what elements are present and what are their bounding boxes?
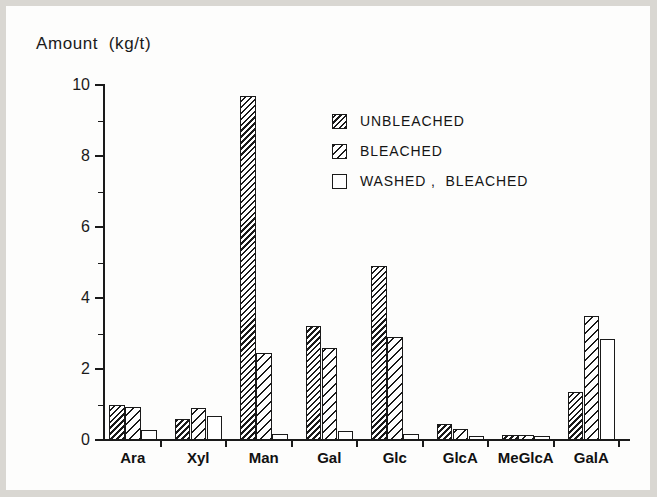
legend-swatch-0 — [332, 114, 347, 129]
y-tick-0: 0 — [95, 439, 104, 441]
bar-ara-series-2 — [141, 430, 157, 440]
bar-group-man — [240, 85, 288, 440]
legend-item-0: UNBLEACHED — [332, 106, 582, 136]
legend: UNBLEACHEDBLEACHEDWASHED , BLEACHED — [332, 106, 582, 196]
y-minor-tick-7 — [98, 192, 104, 193]
x-label-glca: GlcA — [443, 449, 478, 466]
bar-glca-series-0 — [437, 424, 453, 440]
x-tick-xyl — [225, 440, 227, 447]
y-tick-8: 8 — [95, 155, 104, 157]
legend-item-1: BLEACHED — [332, 136, 582, 166]
bar-xyl-series-0 — [175, 419, 191, 440]
y-tick-label-4: 4 — [81, 289, 90, 307]
bar-glc-series-1 — [387, 337, 403, 440]
bar-man-series-0 — [240, 96, 256, 440]
legend-label-2: WASHED , BLEACHED — [360, 173, 528, 189]
scan-border-right — [650, 0, 657, 497]
bar-xyl-series-2 — [207, 416, 223, 440]
bar-ara-series-0 — [109, 405, 125, 441]
bar-meglca-series-1 — [518, 435, 534, 440]
scan-border-bottom — [0, 490, 657, 497]
y-tick-label-10: 10 — [72, 76, 90, 94]
y-tick-4: 4 — [95, 297, 104, 299]
y-tick-label-0: 0 — [81, 431, 90, 449]
bar-meglca-series-0 — [502, 435, 518, 440]
x-label-xyl: Xyl — [187, 449, 210, 466]
y-minor-tick-5 — [98, 263, 104, 264]
x-tick-glc — [422, 440, 424, 447]
y-tick-2: 2 — [95, 368, 104, 370]
scan-border-top — [0, 0, 657, 6]
bar-man-series-2 — [272, 434, 288, 440]
bar-gala-series-2 — [600, 339, 616, 440]
y-tick-6: 6 — [95, 226, 104, 228]
bar-gala-series-0 — [568, 392, 584, 440]
bar-glc-series-2 — [403, 434, 419, 440]
bar-xyl-series-1 — [191, 408, 207, 440]
x-label-gal: Gal — [317, 449, 341, 466]
scan-border-left — [0, 0, 6, 497]
y-tick-label-2: 2 — [81, 360, 90, 378]
y-minor-tick-1 — [98, 405, 104, 406]
legend-label-0: UNBLEACHED — [360, 113, 465, 129]
x-tick-man — [291, 440, 293, 447]
bar-gala-series-1 — [584, 316, 600, 440]
x-tick-glca — [487, 440, 489, 447]
y-tick-label-6: 6 — [81, 218, 90, 236]
bar-group-ara — [109, 85, 157, 440]
x-label-man: Man — [249, 449, 279, 466]
bar-ara-series-1 — [125, 407, 141, 440]
bar-gal-series-1 — [322, 348, 338, 440]
bar-group-xyl — [175, 85, 223, 440]
bar-glca-series-2 — [469, 436, 485, 440]
y-minor-tick-3 — [98, 334, 104, 335]
bar-man-series-1 — [256, 353, 272, 440]
x-tick-gala — [618, 440, 620, 447]
bar-meglca-series-2 — [534, 436, 550, 440]
x-tick-meglca — [553, 440, 555, 447]
x-label-gala: GalA — [574, 449, 609, 466]
bar-glca-series-1 — [453, 429, 469, 440]
legend-swatch-1 — [332, 144, 347, 159]
legend-item-2: WASHED , BLEACHED — [332, 166, 582, 196]
legend-swatch-2 — [332, 174, 347, 189]
y-minor-tick-9 — [98, 121, 104, 122]
bar-gal-series-2 — [338, 431, 354, 440]
bar-glc-series-0 — [371, 266, 387, 440]
x-label-glc: Glc — [383, 449, 407, 466]
x-label-meglca: MeGlcA — [498, 449, 554, 466]
bar-gal-series-0 — [306, 326, 322, 440]
y-axis-title: Amount (kg/t) — [36, 34, 151, 54]
figure-root: Amount (kg/t) 0246810 AraXylManGalGlcGlc… — [0, 0, 657, 497]
x-tick-ara — [160, 440, 162, 447]
y-tick-10: 10 — [95, 84, 104, 86]
x-tick-gal — [356, 440, 358, 447]
y-tick-label-8: 8 — [81, 147, 90, 165]
legend-label-1: BLEACHED — [360, 143, 443, 159]
x-label-ara: Ara — [120, 449, 145, 466]
